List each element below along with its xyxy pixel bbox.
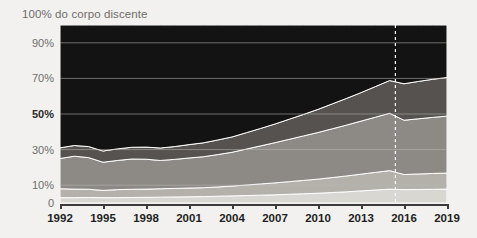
x-tick-label-1998: 1998 [133,212,159,224]
y-tick-label-50: 50% [32,108,54,120]
x-tick-label-2001: 2001 [176,212,202,224]
y-tick-label-0: 0 [48,197,54,209]
x-tick-label-2004: 2004 [219,212,245,224]
y-axis: 90%70%50%30%10%0 [0,25,54,203]
plot-area [60,25,447,203]
y-tick-label-90: 90% [32,37,54,49]
x-tick-mark-2010 [318,204,320,209]
x-tick-label-2016: 2016 [391,212,417,224]
x-tick-label-2007: 2007 [262,212,288,224]
x-tick-mark-1998 [146,204,148,209]
x-tick-mark-1995 [103,204,105,209]
chart-title: 100% do corpo discente [22,8,148,20]
x-tick-label-2019: 2019 [434,212,460,224]
x-tick-mark-2007 [275,204,277,209]
x-tick-label-1992: 1992 [47,212,73,224]
y-tick-label-10: 10% [32,179,54,191]
x-tick-mark-2016 [404,204,406,209]
x-tick-mark-2013 [361,204,363,209]
x-tick-mark-1992 [60,204,62,209]
stacked-area-chart: 100% do corpo discente 90%70%50%30%10%0 … [0,0,477,238]
y-tick-label-30: 30% [32,144,54,156]
plot-svg [60,25,447,203]
x-tick-mark-2019 [447,204,449,209]
x-axis-line [60,204,447,206]
y-tick-label-70: 70% [32,72,54,84]
x-tick-label-2010: 2010 [305,212,331,224]
x-tick-label-2013: 2013 [348,212,374,224]
x-tick-label-1995: 1995 [90,212,116,224]
x-tick-mark-2004 [232,204,234,209]
x-tick-mark-2001 [189,204,191,209]
